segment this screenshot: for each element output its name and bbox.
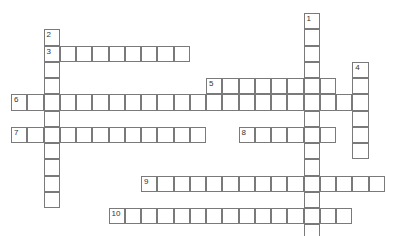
- crossword-cell[interactable]: [174, 208, 190, 224]
- crossword-cell[interactable]: [44, 176, 60, 192]
- crossword-cell[interactable]: [157, 176, 173, 192]
- crossword-cell[interactable]: [304, 208, 320, 224]
- crossword-cell[interactable]: 1: [304, 13, 320, 29]
- crossword-cell[interactable]: [304, 46, 320, 62]
- crossword-cell[interactable]: [27, 127, 43, 143]
- crossword-cell[interactable]: [44, 159, 60, 175]
- crossword-cell[interactable]: [304, 94, 320, 110]
- crossword-cell[interactable]: [222, 94, 238, 110]
- crossword-cell[interactable]: [190, 176, 206, 192]
- crossword-cell[interactable]: [304, 29, 320, 45]
- crossword-cell[interactable]: [44, 143, 60, 159]
- crossword-cell[interactable]: [206, 176, 222, 192]
- crossword-cell[interactable]: [44, 94, 60, 110]
- crossword-cell[interactable]: [44, 192, 60, 208]
- crossword-cell[interactable]: [239, 94, 255, 110]
- crossword-cell[interactable]: [239, 208, 255, 224]
- crossword-cell[interactable]: [92, 127, 108, 143]
- crossword-cell[interactable]: [125, 208, 141, 224]
- crossword-cell[interactable]: [304, 224, 320, 236]
- crossword-cell[interactable]: [304, 127, 320, 143]
- crossword-cell[interactable]: [320, 78, 336, 94]
- crossword-cell[interactable]: [109, 127, 125, 143]
- crossword-cell[interactable]: [304, 159, 320, 175]
- crossword-cell[interactable]: [304, 143, 320, 159]
- crossword-cell[interactable]: 9: [141, 176, 157, 192]
- crossword-cell[interactable]: [304, 62, 320, 78]
- crossword-cell[interactable]: [60, 127, 76, 143]
- crossword-cell[interactable]: 6: [11, 94, 27, 110]
- crossword-cell[interactable]: [222, 78, 238, 94]
- crossword-cell[interactable]: [44, 127, 60, 143]
- crossword-cell[interactable]: [271, 176, 287, 192]
- crossword-cell[interactable]: [255, 208, 271, 224]
- crossword-cell[interactable]: [352, 111, 368, 127]
- crossword-cell[interactable]: [125, 46, 141, 62]
- crossword-cell[interactable]: [27, 94, 43, 110]
- crossword-cell[interactable]: [60, 94, 76, 110]
- crossword-cell[interactable]: [287, 127, 303, 143]
- crossword-cell[interactable]: [157, 208, 173, 224]
- crossword-cell[interactable]: [174, 127, 190, 143]
- crossword-cell[interactable]: [222, 176, 238, 192]
- crossword-cell[interactable]: [320, 94, 336, 110]
- crossword-cell[interactable]: 10: [109, 208, 125, 224]
- crossword-cell[interactable]: [206, 94, 222, 110]
- crossword-cell[interactable]: [157, 46, 173, 62]
- crossword-cell[interactable]: [369, 176, 385, 192]
- crossword-cell[interactable]: [44, 62, 60, 78]
- crossword-cell[interactable]: [174, 176, 190, 192]
- crossword-cell[interactable]: [336, 176, 352, 192]
- crossword-cell[interactable]: 7: [11, 127, 27, 143]
- crossword-cell[interactable]: [352, 78, 368, 94]
- crossword-cell[interactable]: [92, 46, 108, 62]
- crossword-cell[interactable]: [206, 208, 222, 224]
- crossword-cell[interactable]: [336, 94, 352, 110]
- crossword-cell[interactable]: [255, 94, 271, 110]
- crossword-cell[interactable]: [304, 111, 320, 127]
- crossword-cell[interactable]: [271, 127, 287, 143]
- crossword-cell[interactable]: [190, 208, 206, 224]
- crossword-cell[interactable]: [304, 176, 320, 192]
- crossword-cell[interactable]: [44, 111, 60, 127]
- crossword-cell[interactable]: [222, 208, 238, 224]
- crossword-cell[interactable]: [352, 143, 368, 159]
- crossword-cell[interactable]: [76, 46, 92, 62]
- crossword-cell[interactable]: [141, 46, 157, 62]
- crossword-cell[interactable]: [271, 78, 287, 94]
- crossword-cell[interactable]: [141, 127, 157, 143]
- crossword-cell[interactable]: [109, 46, 125, 62]
- crossword-cell[interactable]: [352, 127, 368, 143]
- crossword-cell[interactable]: 3: [44, 46, 60, 62]
- crossword-cell[interactable]: 4: [352, 62, 368, 78]
- crossword-cell[interactable]: [304, 78, 320, 94]
- crossword-cell[interactable]: [304, 192, 320, 208]
- crossword-cell[interactable]: [320, 127, 336, 143]
- crossword-cell[interactable]: [141, 94, 157, 110]
- crossword-cell[interactable]: 5: [206, 78, 222, 94]
- crossword-cell[interactable]: [320, 176, 336, 192]
- crossword-cell[interactable]: [157, 94, 173, 110]
- crossword-cell[interactable]: [174, 94, 190, 110]
- crossword-cell[interactable]: 8: [239, 127, 255, 143]
- crossword-cell[interactable]: [336, 208, 352, 224]
- crossword-cell[interactable]: [141, 208, 157, 224]
- crossword-cell[interactable]: [109, 94, 125, 110]
- crossword-cell[interactable]: [190, 127, 206, 143]
- crossword-cell[interactable]: [271, 208, 287, 224]
- crossword-cell[interactable]: [287, 78, 303, 94]
- crossword-cell[interactable]: [352, 176, 368, 192]
- crossword-cell[interactable]: [255, 78, 271, 94]
- crossword-cell[interactable]: [239, 176, 255, 192]
- crossword-cell[interactable]: [320, 208, 336, 224]
- crossword-cell[interactable]: [92, 94, 108, 110]
- crossword-cell[interactable]: [239, 78, 255, 94]
- crossword-cell[interactable]: [125, 94, 141, 110]
- crossword-cell[interactable]: [60, 46, 76, 62]
- crossword-cell[interactable]: [44, 78, 60, 94]
- crossword-cell[interactable]: [76, 94, 92, 110]
- crossword-cell[interactable]: [287, 208, 303, 224]
- crossword-cell[interactable]: [287, 94, 303, 110]
- crossword-cell[interactable]: [255, 127, 271, 143]
- crossword-cell[interactable]: [190, 94, 206, 110]
